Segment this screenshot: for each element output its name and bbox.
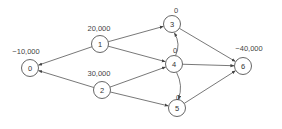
node-4: 40	[166, 46, 183, 73]
edge-5-to-6	[184, 71, 235, 104]
node-2: 230,000	[88, 69, 111, 99]
node-0: 0−10,000	[12, 47, 39, 77]
node-1: 120,000	[88, 24, 111, 53]
network-diagram: 0−10,000120,000230,0003040506−40,000	[0, 0, 282, 129]
edges	[39, 26, 236, 105]
edge-1-to-4	[108, 46, 165, 61]
edge-2-to-4	[110, 67, 166, 87]
node-label: 2	[100, 86, 104, 95]
node-supply-label: −40,000	[235, 44, 262, 53]
edge-3-to-6	[179, 28, 235, 61]
node-supply-label: 0	[174, 6, 178, 15]
edge-1-to-3	[108, 26, 163, 41]
node-6: 6−40,000	[235, 44, 263, 75]
node-supply-label: −10,000	[12, 47, 39, 56]
node-5: 50	[169, 93, 186, 117]
edge-1-to-0	[39, 47, 92, 65]
node-label: 0	[28, 64, 32, 73]
edge-2-to-5	[110, 92, 168, 106]
node-supply-label: 20,000	[88, 24, 111, 33]
node-supply-label: 0	[176, 93, 180, 102]
node-label: 4	[172, 60, 176, 69]
edge-2-to-0	[39, 71, 94, 88]
node-supply-label: 30,000	[88, 69, 111, 78]
edge-4-to-6	[182, 64, 234, 65]
node-supply-label: 0	[173, 46, 177, 55]
node-label: 3	[170, 20, 174, 29]
node-label: 1	[98, 40, 102, 49]
node-label: 5	[175, 104, 179, 113]
node-label: 6	[241, 62, 245, 71]
node-3: 30	[164, 6, 181, 33]
